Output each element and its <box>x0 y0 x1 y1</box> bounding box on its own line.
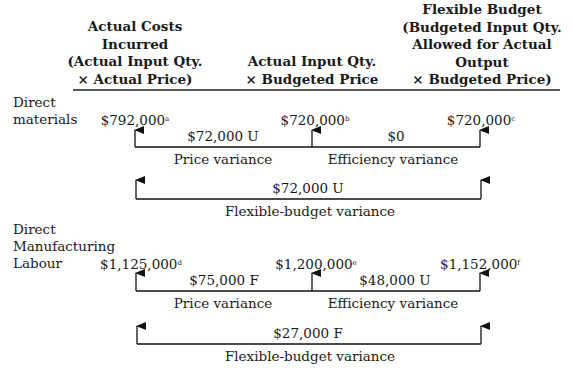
dml-efficiency-variance-label: Efficiency variance <box>328 295 459 312</box>
dm-row-label: Direct materials <box>13 94 77 128</box>
footnote-marker: b <box>345 115 349 123</box>
dml-efficiency-variance-amount: $48,000 U <box>359 272 431 289</box>
row-label-line: Direct <box>13 94 77 111</box>
row-label-line: Direct <box>13 221 115 238</box>
row-label-line: Manufacturing <box>13 238 115 255</box>
dm-flexible-budget-variance-amount: $72,000 U <box>272 180 344 197</box>
dm-efficiency-variance-label: Efficiency variance <box>328 151 459 168</box>
footnote-marker: e <box>353 259 357 267</box>
dm-price-variance-amount: $72,000 U <box>187 128 259 145</box>
dml-price-variance-label: Price variance <box>174 295 272 312</box>
dm-actual-cost: $792,000a <box>101 111 170 129</box>
row-label-line: materials <box>13 111 77 128</box>
dm-flexible-budget: $720,000c <box>447 111 515 129</box>
dml-flexible-budget-variance-amount: $27,000 F <box>273 325 342 342</box>
footnote-marker: d <box>177 259 181 267</box>
dml-actual-input-budgeted-price: $1,200,000e <box>275 255 356 273</box>
dm-efficiency-variance-amount: $0 <box>387 128 404 145</box>
dm-price-variance-label: Price variance <box>174 151 272 168</box>
footnote-marker: f <box>517 259 520 267</box>
dml-flexible-budget-variance-label: Flexible-budget variance <box>225 348 395 365</box>
footnote-marker: a <box>165 115 169 123</box>
dm-flexible-budget-variance-label: Flexible-budget variance <box>225 203 395 220</box>
dm-actual-input-budgeted-price: $720,000b <box>281 111 350 129</box>
footnote-marker: c <box>511 115 515 123</box>
dml-flexible-budget: $1,152,000f <box>440 255 520 273</box>
dml-actual-cost: $1,125,000d <box>100 255 182 273</box>
dml-price-variance-amount: $75,000 F <box>189 272 258 289</box>
